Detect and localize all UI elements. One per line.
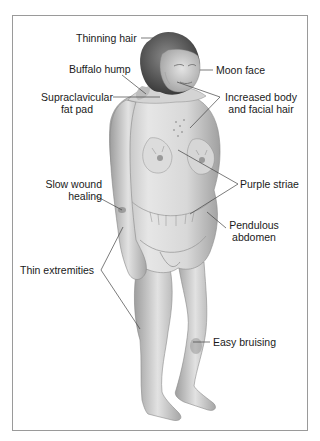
label-thin-extremities: Thin extremities (20, 264, 94, 276)
label-pendulous-abdomen: Pendulous abdomen (224, 219, 284, 243)
right-leg (175, 262, 215, 410)
label-pendulous-line1: Pendulous (224, 219, 284, 231)
label-supraclavicular: Supraclavicular fat pad (40, 91, 114, 115)
leader-buffalo-hump (122, 75, 146, 94)
left-leg (134, 254, 181, 421)
label-increased-hair: Increased body and facial hair (222, 91, 300, 115)
head (140, 32, 200, 95)
label-slow-wound-line1: Slow wound (36, 178, 102, 190)
label-thinning-hair: Thinning hair (76, 32, 137, 44)
label-supraclavicular-line1: Supraclavicular (40, 91, 114, 103)
label-easy-bruising: Easy bruising (213, 336, 276, 348)
label-pendulous-line2: abdomen (224, 231, 284, 243)
label-buffalo-hump: Buffalo hump (69, 63, 131, 75)
label-slow-wound: Slow wound healing (36, 178, 102, 202)
label-increased-hair-line2: and facial hair (222, 103, 300, 115)
label-supraclavicular-line2: fat pad (40, 103, 114, 115)
label-moon-face: Moon face (216, 64, 265, 76)
label-slow-wound-line2: healing (36, 190, 102, 202)
label-purple-striae: Purple striae (240, 178, 299, 190)
leader-thin-extremities-a (101, 227, 123, 270)
label-increased-hair-line1: Increased body (222, 91, 300, 103)
bruise-mark (190, 338, 202, 354)
